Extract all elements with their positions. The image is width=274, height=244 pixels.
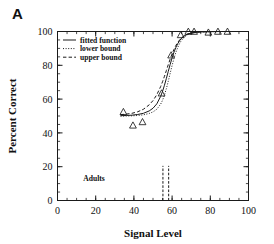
svg-text:40: 40	[129, 205, 139, 216]
svg-text:100: 100	[241, 205, 256, 216]
svg-text:100: 100	[38, 26, 53, 37]
svg-text:20: 20	[91, 205, 101, 216]
svg-text:60: 60	[167, 205, 177, 216]
svg-text:80: 80	[205, 205, 215, 216]
svg-text:60: 60	[43, 94, 53, 105]
svg-text:upper bound: upper bound	[80, 53, 123, 62]
svg-text:40: 40	[43, 128, 53, 139]
svg-text:0: 0	[48, 195, 53, 206]
svg-text:0: 0	[55, 205, 60, 216]
chart-canvas: 020406080100020406080100Signal LevelPerc…	[0, 0, 274, 244]
svg-text:Signal Level: Signal Level	[124, 227, 182, 239]
figure-panel: A 020406080100020406080100Signal LevelPe…	[0, 0, 274, 244]
svg-text:Percent Correct: Percent Correct	[6, 78, 18, 153]
svg-text:20: 20	[43, 161, 53, 172]
svg-text:Adults: Adults	[83, 174, 105, 183]
svg-text:80: 80	[43, 60, 53, 71]
